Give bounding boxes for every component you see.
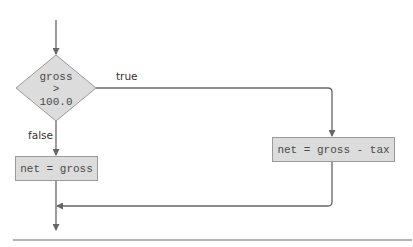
- decision-line-3: 100.0: [39, 96, 72, 108]
- false-label: false: [28, 129, 53, 141]
- true-label: true: [116, 70, 138, 82]
- decision-node: gross > 100.0: [16, 55, 96, 121]
- merge-connector: [57, 162, 332, 206]
- decision-line-2: >: [53, 83, 60, 95]
- flowchart: gross > 100.0 true false net = gross net…: [0, 0, 413, 247]
- process-true-node: net = gross - tax: [273, 138, 395, 162]
- process-false-label: net = gross: [20, 163, 93, 175]
- process-false-node: net = gross: [16, 157, 98, 181]
- decision-line-1: gross: [39, 71, 72, 83]
- true-branch-connector: [96, 88, 332, 136]
- process-true-label: net = gross - tax: [277, 144, 390, 156]
